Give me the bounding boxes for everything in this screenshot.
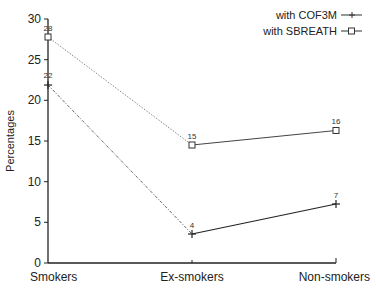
series-cof3m bbox=[44, 81, 340, 238]
cross-marker-icon bbox=[332, 200, 340, 208]
data-label-cof3m-non-smokers: 7 bbox=[334, 191, 339, 200]
legend-label-cof3m: with COF3M bbox=[275, 9, 337, 21]
data-label-cof3m-ex-smokers: 4 bbox=[190, 221, 195, 230]
data-label-sbreath-smokers: 28 bbox=[44, 24, 53, 33]
data-label-sbreath-ex-smokers: 15 bbox=[188, 132, 197, 141]
square-marker-icon bbox=[189, 142, 195, 148]
y-axis-title: Percentages bbox=[4, 110, 16, 172]
x-label-smokers: Smokers bbox=[30, 270, 77, 284]
legend: with COF3M with SBREATH bbox=[262, 9, 362, 37]
legend-label-sbreath: with SBREATH bbox=[262, 25, 337, 37]
x-label-ex-smokers: Ex-smokers bbox=[160, 270, 223, 284]
y-tick-label-30: 30 bbox=[28, 12, 42, 26]
y-tick-label-25: 25 bbox=[28, 53, 42, 67]
y-tick-label-15: 15 bbox=[28, 134, 42, 148]
square-marker-icon bbox=[45, 34, 51, 40]
y-tick-label-0: 0 bbox=[34, 256, 41, 270]
legend-square-icon bbox=[349, 28, 355, 34]
line-chart: 0 5 10 15 20 25 30 Percentages Smokers E… bbox=[0, 0, 376, 292]
y-tick-label-20: 20 bbox=[28, 93, 42, 107]
data-label-sbreath-non-smokers: 16 bbox=[332, 117, 341, 126]
data-label-cof3m-smokers: 22 bbox=[44, 71, 53, 80]
x-label-non-smokers: Non-smokers bbox=[299, 270, 370, 284]
square-marker-icon bbox=[333, 128, 339, 134]
legend-cross-icon bbox=[349, 12, 355, 18]
y-tick-label-5: 5 bbox=[34, 215, 41, 229]
y-tick-label-10: 10 bbox=[28, 175, 42, 189]
series-sbreath bbox=[45, 34, 339, 148]
cross-marker-icon bbox=[44, 81, 52, 89]
